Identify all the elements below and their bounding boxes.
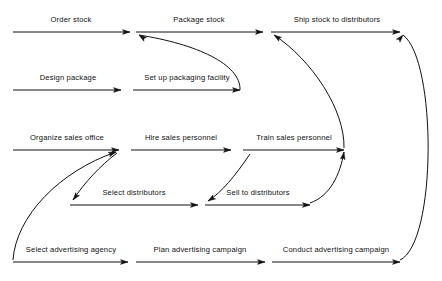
activity-label-order-stock: Order stock [51, 15, 92, 24]
arrowhead-arrow-into-ship-stock-from-campaign [396, 33, 404, 42]
activity-label-set-up-packaging-facility: Set up packaging facility [144, 73, 230, 82]
dependency-curve-conduct-campaign-to-ship-stock [400, 35, 428, 260]
activity-label-plan-advertising-campaign: Plan advertising campaign [154, 245, 247, 254]
activity-label-design-package: Design package [40, 73, 97, 82]
arrowheads-group [71, 30, 405, 265]
dependency-curve-train-personnel-to-ship-stock [274, 35, 344, 148]
activity-edges-group [13, 32, 400, 262]
arrowhead-arrow-into-package-stock [138, 33, 147, 41]
activity-label-package-stock: Package stock [173, 15, 224, 24]
activity-label-ship-stock-to-distributors: Ship stock to distributors [294, 15, 381, 24]
arrowhead-arrow-into-train-personnel-from-sell [340, 152, 346, 160]
dependency-curve-sell-to-distributors-to-train-personnel [310, 152, 344, 203]
activity-label-conduct-advertising-campaign: Conduct advertising campaign [283, 245, 389, 254]
activity-label-sell-to-distributors: Sell to distributors [226, 188, 289, 197]
dependency-curves-group [13, 35, 428, 260]
activity-labels-group: Order stockPackage stockShip stock to di… [26, 15, 389, 254]
activity-label-hire-sales-personnel: Hire sales personnel [145, 133, 217, 142]
network-canvas: Order stockPackage stockShip stock to di… [0, 0, 442, 281]
dependency-curve-select-agency-to-organize-sales-office [13, 152, 116, 260]
activity-label-select-advertising-agency: Select advertising agency [26, 245, 116, 254]
activity-label-select-distributors: Select distributors [102, 188, 165, 197]
arrowhead-arrow-into-select-distributors [71, 193, 79, 202]
activity-network-diagram: Order stockPackage stockShip stock to di… [0, 0, 442, 281]
activity-label-train-sales-personnel: Train sales personnel [256, 133, 332, 142]
arrowhead-arrow-into-ship-stock-from-train [273, 33, 282, 41]
activity-label-organize-sales-office: Organize sales office [30, 133, 104, 142]
